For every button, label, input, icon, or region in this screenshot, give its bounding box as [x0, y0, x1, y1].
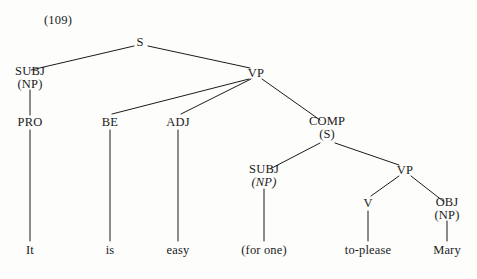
- tree-edge-vp-outer-to-be: [112, 79, 249, 114]
- tree-node-category-label: PRO: [18, 116, 43, 129]
- tree-edge-s-root-to-subj-outer: [31, 46, 134, 70]
- tree-node-subcategory-label: (NP): [435, 209, 460, 222]
- tree-node-v: V: [363, 197, 372, 210]
- tree-leaf-leaf-it: It: [26, 243, 34, 258]
- tree-node-pro: PRO: [18, 116, 43, 129]
- tree-node-category-label: COMP: [309, 115, 345, 128]
- tree-node-vp-inner: VP: [397, 164, 413, 177]
- tree-edge-s-root-to-vp-outer: [148, 46, 250, 68]
- tree-node-category-label: VP: [397, 164, 413, 177]
- tree-edge-vp-outer-to-adj: [181, 79, 251, 114]
- tree-node-obj: OBJ(NP): [435, 196, 460, 222]
- tree-node-category-label: VP: [248, 67, 264, 80]
- tree-leaf-leaf-mary: Mary: [433, 243, 461, 258]
- tree-node-vp-outer: VP: [248, 67, 264, 80]
- syntax-tree-figure: (109) SSUBJ(NP)VPPROBEADJCOMP(S)SUBJ(NP)…: [0, 0, 477, 279]
- tree-node-category-label: BE: [102, 116, 118, 129]
- tree-node-subcategory-label: (S): [309, 128, 345, 141]
- tree-node-be: BE: [102, 116, 118, 129]
- tree-branch-lines: [0, 0, 477, 279]
- tree-leaf-leaf-is: is: [106, 243, 115, 258]
- tree-node-category-label: SUBJ: [15, 65, 45, 78]
- tree-node-category-label: S: [136, 36, 143, 49]
- tree-node-comp: COMP(S): [309, 115, 345, 141]
- tree-node-subj-outer: SUBJ(NP): [15, 65, 45, 91]
- tree-node-category-label: V: [363, 197, 372, 210]
- tree-node-category-label: OBJ: [435, 196, 460, 209]
- tree-node-category-label: SUBJ: [249, 163, 279, 176]
- tree-leaf-leaf-easy: easy: [167, 243, 190, 258]
- tree-edge-vp-inner-to-v: [371, 176, 399, 196]
- tree-leaf-leaf-to-please: to-please: [345, 243, 391, 258]
- tree-node-s-root: S: [136, 36, 143, 49]
- tree-node-subcategory-label: (NP): [15, 78, 45, 91]
- tree-node-adj: ADJ: [166, 116, 189, 129]
- tree-node-subcategory-label: (NP): [249, 176, 279, 189]
- tree-node-subj-inner: SUBJ(NP): [249, 163, 279, 189]
- tree-leaf-leaf-for-one: (for one): [241, 243, 286, 258]
- tree-edge-comp-to-vp-inner: [335, 143, 399, 165]
- tree-node-category-label: ADJ: [166, 116, 189, 129]
